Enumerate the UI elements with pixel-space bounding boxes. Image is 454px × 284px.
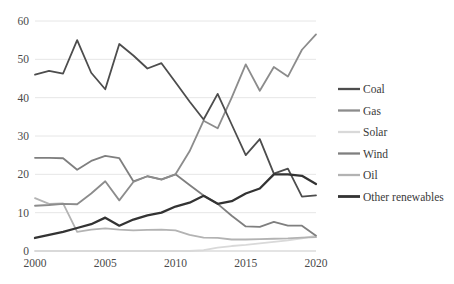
gridlines — [35, 21, 316, 251]
legend-label-oil: Oil — [363, 169, 378, 181]
y-tick-label: 30 — [18, 130, 30, 142]
y-axis-tick-labels: 0102030405060 — [18, 15, 30, 257]
legend-label-gas: Gas — [363, 105, 381, 117]
y-tick-label: 10 — [18, 207, 30, 219]
chart-canvas: 0102030405060 20002005201020152020 CoalG… — [0, 0, 454, 284]
line-chart-figure: 0102030405060 20002005201020152020 CoalG… — [0, 0, 454, 284]
x-tick-label: 2020 — [305, 257, 328, 269]
y-tick-label: 50 — [18, 53, 30, 65]
y-tick-label: 0 — [23, 245, 29, 257]
x-tick-label: 2000 — [24, 257, 47, 269]
data-series-lines — [35, 34, 316, 251]
y-tick-label: 40 — [18, 92, 30, 104]
x-tick-label: 2010 — [164, 257, 187, 269]
y-tick-label: 60 — [18, 15, 30, 27]
x-tick-label: 2005 — [94, 257, 117, 269]
series-line-other-renewables — [35, 174, 316, 238]
legend-label-solar: Solar — [363, 126, 387, 138]
legend-label-other-renewables: Other renewables — [363, 191, 444, 203]
legend-label-coal: Coal — [363, 83, 385, 95]
legend-label-wind: Wind — [363, 148, 388, 160]
y-tick-label: 20 — [18, 168, 30, 180]
series-line-wind — [35, 156, 316, 236]
series-line-gas — [35, 34, 316, 205]
x-tick-label: 2015 — [234, 257, 257, 269]
x-axis-tick-labels: 20002005201020152020 — [24, 257, 328, 269]
legend: CoalGasSolarWindOilOther renewables — [338, 83, 444, 203]
